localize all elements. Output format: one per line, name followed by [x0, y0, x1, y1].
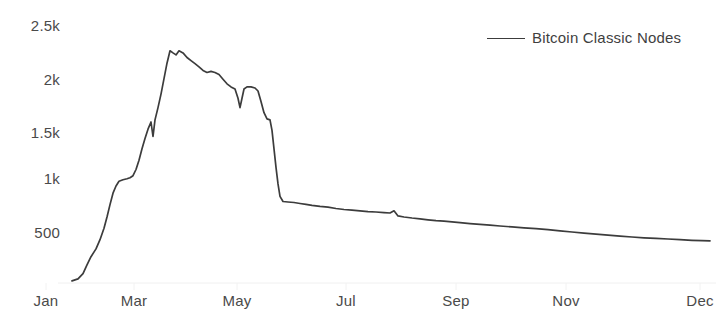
chart-legend: Bitcoin Classic Nodes — [487, 30, 681, 46]
x-axis: Jan Mar May Jul Sep Nov Dec — [0, 0, 716, 316]
x-tick-label-jul: Jul — [336, 293, 356, 309]
legend-line-swatch — [487, 38, 525, 39]
x-tick-label-sep: Sep — [442, 293, 469, 309]
legend-label-bitcoin-classic-nodes: Bitcoin Classic Nodes — [532, 30, 681, 46]
x-tick-label-jan: Jan — [34, 293, 59, 309]
x-tick-label-mar: Mar — [121, 293, 147, 309]
x-tick-label-dec: Dec — [686, 293, 713, 309]
x-tick-label-nov: Nov — [552, 293, 579, 309]
x-tick-label-may: May — [223, 293, 252, 309]
line-chart: 2.5k 2k 1.5k 1k 500 Jan Mar May Jul Sep … — [0, 0, 716, 316]
